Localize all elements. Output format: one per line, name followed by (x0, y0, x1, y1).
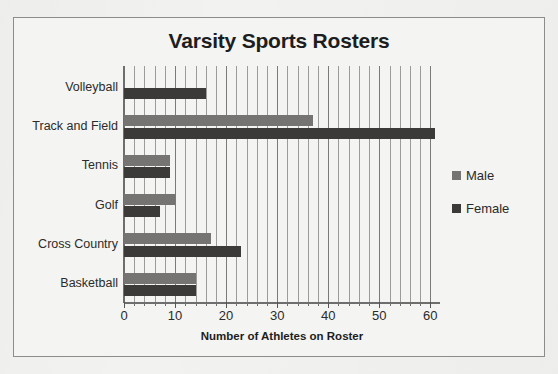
gridline (165, 66, 166, 302)
x-tick (196, 302, 197, 306)
gridline (236, 66, 237, 302)
bar-track-and-field-male (124, 115, 313, 126)
x-tick-label: 50 (359, 308, 399, 323)
x-axis-line (124, 302, 440, 304)
gridline (410, 66, 411, 302)
gridline (134, 66, 135, 302)
x-tick (308, 302, 309, 306)
gridline (206, 66, 207, 302)
bar-basketball-female (124, 285, 196, 296)
x-tick (165, 302, 166, 306)
chart-title: Varsity Sports Rosters (14, 29, 544, 53)
legend-label-male: Male (466, 168, 494, 183)
gridline (318, 66, 319, 302)
gridline (155, 66, 156, 302)
x-tick (185, 302, 186, 306)
gridline (267, 66, 268, 302)
x-tick-label: 20 (206, 308, 246, 323)
bar-tennis-female (124, 167, 170, 178)
x-tick (359, 302, 360, 306)
x-tick (400, 302, 401, 306)
bar-cross-country-male (124, 233, 211, 244)
x-axis-title: Number of Athletes on Roster (124, 330, 440, 342)
legend-label-female: Female (466, 201, 509, 216)
x-tick (420, 302, 421, 306)
bar-tennis-male (124, 155, 170, 166)
gridline (390, 66, 391, 302)
gridline (308, 66, 309, 302)
x-tick-label: 30 (257, 308, 297, 323)
x-tick (247, 302, 248, 306)
chart-page: Varsity Sports Rosters VolleyballTrack a… (0, 0, 558, 374)
gridline (298, 66, 299, 302)
x-tick (390, 302, 391, 306)
x-tick (267, 302, 268, 306)
bar-golf-male (124, 194, 175, 205)
bar-basketball-male (124, 273, 196, 284)
bar-track-and-field-female (124, 128, 435, 139)
gridline (175, 66, 176, 302)
bar-cross-country-female (124, 246, 241, 257)
x-tick (236, 302, 237, 306)
x-tick (298, 302, 299, 306)
x-tick (216, 302, 217, 306)
bar-volleyball-female (124, 88, 206, 99)
x-tick (287, 302, 288, 306)
gridline (185, 66, 186, 302)
gridline (400, 66, 401, 302)
x-tick-label: 60 (410, 308, 450, 323)
legend-item-male[interactable]: Male (452, 168, 509, 183)
gridline (338, 66, 339, 302)
gridline (277, 66, 278, 302)
gridline (257, 66, 258, 302)
gridline (216, 66, 217, 302)
legend-item-female[interactable]: Female (452, 201, 509, 216)
x-tick (206, 302, 207, 306)
x-tick (257, 302, 258, 306)
x-tick (144, 302, 145, 306)
x-tick (338, 302, 339, 306)
x-tick-label: 10 (155, 308, 195, 323)
x-tick (410, 302, 411, 306)
x-tick (369, 302, 370, 306)
gridline (420, 66, 421, 302)
x-tick-label: 40 (308, 308, 348, 323)
gridline (349, 66, 350, 302)
gridline (379, 66, 380, 302)
x-tick (318, 302, 319, 306)
gridline (247, 66, 248, 302)
x-tick (155, 302, 156, 306)
y-axis-line (123, 66, 125, 303)
gridline (287, 66, 288, 302)
x-tick (349, 302, 350, 306)
legend-swatch-female-icon (452, 204, 461, 213)
gridline (328, 66, 329, 302)
bar-golf-female (124, 206, 160, 217)
legend-swatch-male-icon (452, 171, 461, 180)
x-tick-label: 0 (104, 308, 144, 323)
gridline (144, 66, 145, 302)
gridline (226, 66, 227, 302)
chart-legend: Male Female (452, 168, 509, 234)
x-tick (134, 302, 135, 306)
gridline (196, 66, 197, 302)
gridline (430, 66, 431, 302)
gridline (359, 66, 360, 302)
gridline (369, 66, 370, 302)
